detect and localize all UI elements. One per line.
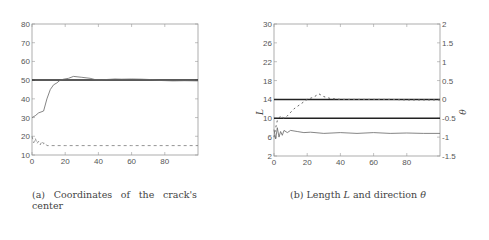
series-line — [274, 128, 440, 139]
y-tick-label: 14 — [263, 95, 272, 104]
caption-a: (a) Coordinates of the crack's center — [32, 189, 197, 211]
y-tick-label: 80 — [21, 20, 30, 29]
plot-frame — [32, 24, 198, 155]
plot-frame — [274, 24, 440, 156]
caption-b-text-1: (b) Length — [290, 189, 344, 200]
x-tick-label: 0 — [30, 157, 35, 166]
y2-tick-label: 2 — [442, 20, 447, 29]
caption-b-text-2: and direction — [350, 189, 420, 200]
x-tick-label: 0 — [272, 158, 277, 167]
y-tick-label: 50 — [21, 76, 30, 85]
y-tick-label: 26 — [263, 39, 272, 48]
series-line — [274, 94, 440, 137]
y2-tick-label: 1 — [442, 58, 447, 67]
x-tick-label: 40 — [94, 157, 103, 166]
x-tick-label: 40 — [336, 158, 345, 167]
y2-tick-label: 1.5 — [442, 39, 454, 48]
chart-b-length-direction: 02040608026101418222630-1.5-1-0.500.511.… — [255, 20, 468, 167]
series-line — [32, 76, 198, 117]
x-tick-label: 20 — [303, 158, 312, 167]
x-tick-label: 80 — [160, 157, 169, 166]
x-tick-label: 60 — [369, 158, 378, 167]
series-line — [32, 136, 198, 145]
caption-b-theta: θ — [420, 189, 426, 200]
y-tick-label: 2 — [268, 152, 273, 161]
y-tick-label: 6 — [268, 133, 273, 142]
caption-b: (b) Length L and direction θ — [290, 189, 426, 200]
y-tick-label: 30 — [21, 114, 30, 123]
y2-tick-label: -0.5 — [442, 114, 456, 123]
y-tick-label: 20 — [21, 132, 30, 141]
x-tick-label: 20 — [61, 157, 70, 166]
y2-tick-label: 0.5 — [442, 77, 454, 86]
y2-axis-label: θ — [458, 109, 468, 115]
caption-a-text: (a) Coordinates of the crack's center — [32, 189, 197, 211]
x-tick-label: 80 — [402, 158, 411, 167]
chart-a-coordinates: 0204060801020304050607080 — [21, 20, 198, 166]
y2-tick-label: -1.5 — [442, 152, 456, 161]
y-axis-label: L — [255, 109, 265, 116]
y-tick-label: 30 — [263, 20, 272, 29]
y-tick-label: 22 — [263, 58, 272, 67]
y2-tick-label: -1 — [442, 133, 450, 142]
y-tick-label: 10 — [21, 151, 30, 160]
y-tick-label: 40 — [21, 95, 30, 104]
y-tick-label: 70 — [21, 39, 30, 48]
y-tick-label: 18 — [263, 77, 272, 86]
x-tick-label: 60 — [127, 157, 136, 166]
y2-tick-label: 0 — [442, 95, 447, 104]
y-tick-label: 60 — [21, 57, 30, 66]
